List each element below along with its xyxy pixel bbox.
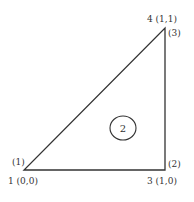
node-1-local-label: (1)	[12, 157, 25, 167]
node-3-local-label: (2)	[168, 159, 181, 169]
node-4-local-label: (3)	[168, 28, 181, 38]
element-number: 2	[120, 123, 126, 134]
node-3-global-label: 3 (1,0)	[147, 176, 177, 186]
triangle-element	[24, 28, 165, 170]
triangle-element-diagram: 2 (1) 1 (0,0) (2) 3 (1,0) 4 (1,1) (3)	[0, 0, 194, 202]
node-1-global-label: 1 (0,0)	[8, 176, 38, 186]
node-4-global-label: 4 (1,1)	[147, 14, 177, 24]
